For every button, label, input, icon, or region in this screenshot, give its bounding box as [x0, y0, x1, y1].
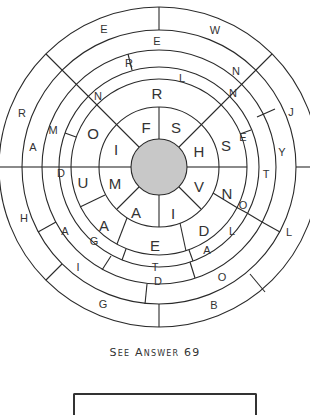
ring-4-letter: R: [125, 57, 133, 69]
ring-3-letter: T: [152, 261, 159, 273]
ring-6-letter: G: [99, 298, 108, 310]
ring-2-letter: D: [199, 222, 210, 239]
ring-4-letter: A: [203, 244, 211, 256]
word-wheel-puzzle: FSHVIAMIRSNDEAUONNEOLTGDMRLTADAENYOIAEWJ…: [0, 0, 310, 330]
ring-2-letter: E: [150, 237, 160, 254]
ring-3-letter: G: [90, 235, 99, 247]
ring-3-letter: M: [48, 124, 57, 136]
ring-2-letter: S: [221, 137, 231, 154]
ring-3-letter: O: [239, 199, 248, 211]
ring-5-letter: A: [29, 141, 37, 153]
ring-5-letter: Y: [278, 146, 286, 158]
ring-4-letter: L: [179, 72, 185, 84]
ring-6-letter: J: [288, 106, 294, 118]
ring-6-letter: H: [20, 212, 28, 224]
ring-5-letter: E: [153, 35, 160, 47]
ring-2-letter: N: [222, 185, 233, 202]
ring-6-letter: B: [210, 299, 217, 311]
ring-3-letter: E: [239, 131, 246, 143]
ring-3-letter: L: [229, 225, 235, 237]
answer-reference-caption: See Answer 69: [0, 346, 310, 359]
ring-1-letter: I: [171, 205, 175, 222]
ring-4-letter: A: [61, 225, 69, 237]
ring-6-letter: W: [210, 24, 221, 36]
answer-box: [73, 393, 257, 415]
ring-2-letter: A: [99, 217, 109, 234]
ring-1-letter: I: [114, 141, 118, 158]
ring-1-letter: V: [194, 178, 204, 195]
ring-6-letter: R: [18, 107, 26, 119]
ring-6-letter: E: [100, 23, 107, 35]
ring-3-letter: N: [229, 87, 237, 99]
ring-2-letter: O: [87, 125, 99, 142]
ring-5-letter: I: [76, 261, 79, 273]
ring-2-letter: U: [78, 174, 89, 191]
ring-4-letter: T: [263, 168, 270, 180]
ring-1-letter: S: [171, 119, 181, 136]
ring-5-letter: O: [218, 271, 227, 283]
ring-6-letter: L: [286, 226, 292, 238]
ring-1-letter: F: [141, 119, 150, 136]
ring-3-letter: N: [94, 90, 102, 102]
ring-4-letter: D: [154, 275, 162, 287]
ring-5-letter: N: [232, 65, 240, 77]
center-disc: [131, 139, 187, 195]
ring-1-letter: H: [194, 143, 205, 160]
ring-3-letter: D: [57, 167, 65, 179]
ring-2-letter: R: [152, 85, 163, 102]
ring-1-letter: M: [109, 175, 122, 192]
ring-1-letter: A: [131, 204, 141, 221]
